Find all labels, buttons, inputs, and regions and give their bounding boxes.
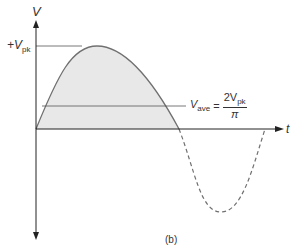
t-axis-label: t [286,123,289,135]
average-formula: Vave = 2Vpk π [190,92,247,120]
peak-label-main: +V [7,38,22,52]
negative-half-cycle-dashed [179,129,265,212]
numerator-sub: pk [237,97,245,106]
peak-label: +Vpk [7,39,30,54]
y-axis-arrow-down-icon [33,232,39,240]
peak-label-sub: pk [22,45,30,54]
y-axis-label: V [32,5,41,18]
y-axis-arrow-up-icon [33,20,39,28]
equals-sign: = [213,101,219,112]
figure-caption: (b) [165,235,177,245]
t-axis-arrow-icon [275,126,284,132]
vave-sub: ave [197,104,210,113]
fraction-denominator: π [231,108,238,120]
fraction-numerator: 2V [224,91,237,103]
sine-wave-diagram [0,0,293,247]
positive-half-cycle-fill [36,46,179,129]
